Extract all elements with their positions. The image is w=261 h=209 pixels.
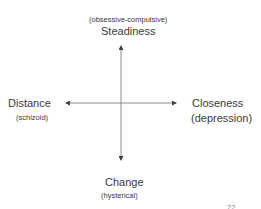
left-label: Distance [8, 97, 51, 109]
bottom-label: Change [105, 176, 144, 188]
slide-number: 22 [227, 203, 235, 209]
right-sublabel: (depression) [191, 112, 252, 124]
top-sublabel: (obsessive-compulsive) [89, 15, 167, 24]
left-sublabel: (schizoid) [16, 113, 48, 122]
top-label: Steadiness [101, 25, 155, 37]
bottom-sublabel: (hysterical) [101, 191, 138, 200]
right-label: Closeness [192, 97, 243, 109]
